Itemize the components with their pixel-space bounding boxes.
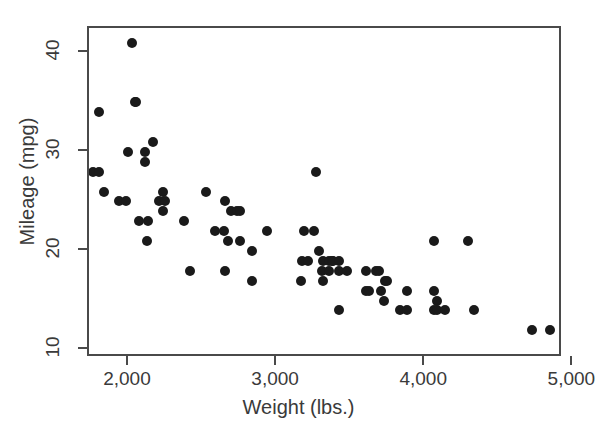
data-point [235, 206, 245, 216]
y-axis-tick [78, 347, 87, 349]
data-point [247, 276, 257, 286]
x-axis-tick [422, 356, 424, 365]
data-point [303, 256, 313, 266]
data-point [223, 236, 233, 246]
x-axis-tick-label: 2,000 [82, 368, 172, 390]
data-point [158, 206, 168, 216]
data-point [94, 107, 104, 117]
data-point [219, 226, 229, 236]
data-point [131, 97, 141, 107]
scatter-plot-figure: 10203040 2,0003,0004,0005,000 Mileage (m… [0, 0, 597, 432]
data-point [235, 236, 245, 246]
data-point [342, 266, 352, 276]
data-point [296, 276, 306, 286]
data-point [262, 226, 272, 236]
data-point [432, 296, 442, 306]
data-point [527, 325, 537, 335]
data-point [318, 276, 328, 286]
data-point [334, 305, 344, 315]
data-point [143, 216, 153, 226]
data-point [220, 196, 230, 206]
x-axis-tick-label: 3,000 [230, 368, 320, 390]
y-axis-title: Mileage (mpg) [16, 52, 39, 312]
data-point [99, 187, 109, 197]
data-point [299, 226, 309, 236]
data-point [469, 305, 479, 315]
data-point [160, 196, 170, 206]
data-point [324, 266, 334, 276]
x-axis-tick [274, 356, 276, 365]
data-point [364, 286, 374, 296]
data-point [179, 216, 189, 226]
x-axis-tick [570, 356, 572, 365]
data-point [429, 286, 439, 296]
data-point [314, 246, 324, 256]
data-point [185, 266, 195, 276]
y-axis-tick-label: 40 [42, 27, 64, 73]
data-point [158, 187, 168, 197]
data-point [440, 305, 450, 315]
data-point [121, 196, 131, 206]
data-point [402, 305, 412, 315]
data-point [402, 286, 412, 296]
data-point [545, 325, 555, 335]
data-point [123, 147, 133, 157]
x-axis-tick-label: 5,000 [526, 368, 597, 390]
y-axis-tick-label: 20 [42, 225, 64, 271]
data-point [429, 236, 439, 246]
x-axis-tick-label: 4,000 [378, 368, 468, 390]
y-axis-tick [78, 248, 87, 250]
plot-frame [87, 26, 561, 356]
data-point [379, 296, 389, 306]
y-axis-tick [78, 50, 87, 52]
data-point [309, 226, 319, 236]
y-axis-tick [78, 149, 87, 151]
data-point [463, 236, 473, 246]
data-point [94, 167, 104, 177]
data-point [382, 276, 392, 286]
data-point [140, 147, 150, 157]
y-axis-tick-label: 10 [42, 324, 64, 370]
data-point-layer [89, 28, 559, 354]
data-point [148, 137, 158, 147]
x-axis-title: Weight (lbs.) [0, 396, 597, 419]
x-axis-tick [126, 356, 128, 365]
y-axis-tick-label: 30 [42, 126, 64, 172]
data-point [140, 157, 150, 167]
data-point [376, 286, 386, 296]
data-point [220, 266, 230, 276]
data-point [142, 236, 152, 246]
data-point [127, 38, 137, 48]
data-point [361, 266, 371, 276]
data-point [247, 246, 257, 256]
data-point [201, 187, 211, 197]
data-point [334, 256, 344, 266]
data-point [374, 266, 384, 276]
data-point [311, 167, 321, 177]
